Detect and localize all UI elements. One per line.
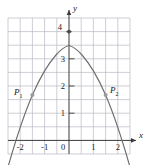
point-p1-subscript: 1: [20, 93, 23, 99]
y-tick-label-2: 2: [61, 81, 65, 91]
point-p1-label: P1: [13, 87, 23, 99]
x-axis-label: x: [138, 130, 143, 140]
x-tick-label-neg2: -2: [17, 142, 24, 152]
parabola-figure: y x 4 3 2 1 -2 -1 0 1 2 P1 P2: [0, 0, 145, 165]
y-axis-label: y: [72, 3, 77, 13]
x-tick-label-2: 2: [116, 142, 120, 152]
x-tick-label-zero: 0: [61, 142, 65, 152]
plot-canvas: y x 4 3 2 1 -2 -1 0 1 2 P1 P2: [0, 0, 145, 165]
point-labels: P1 P2: [13, 85, 119, 99]
point-p2-label: P2: [109, 85, 119, 97]
vertex-marker: [67, 30, 71, 34]
axis-labels: y x 4 3 2 1 -2 -1 0 1 2: [17, 3, 143, 152]
x-axis-arrow: [131, 138, 136, 143]
y-tick-label-4: 4: [58, 22, 63, 32]
point-p2-marker: [104, 93, 108, 97]
y-tick-label-1: 1: [61, 108, 65, 118]
y-tick-label-3: 3: [61, 54, 65, 64]
point-p1-marker: [30, 93, 34, 97]
x-tick-label-1: 1: [91, 142, 95, 152]
x-tick-label-neg1: -1: [41, 142, 48, 152]
y-axis-arrow: [67, 10, 72, 15]
point-p2-subscript: 2: [116, 91, 119, 97]
